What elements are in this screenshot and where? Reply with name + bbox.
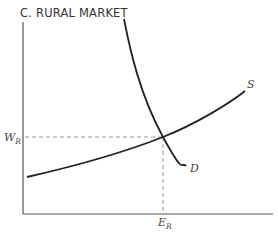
demand-label: D: [189, 162, 199, 175]
supply-demand-diagram: S D WR ER: [0, 0, 278, 235]
demand-curve: [124, 19, 186, 166]
supply-curve: [27, 91, 245, 177]
wage-label: WR: [4, 131, 21, 146]
supply-label: S: [247, 78, 255, 91]
employment-label: ER: [157, 216, 172, 231]
